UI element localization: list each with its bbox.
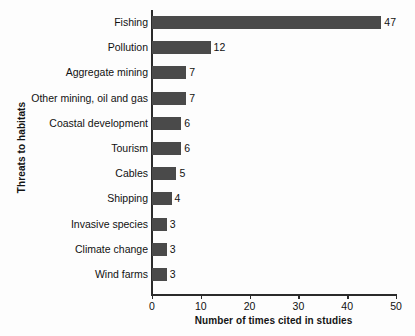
bar-row: Invasive species3 [0, 212, 415, 237]
x-tick-label: 40 [332, 300, 362, 312]
x-tick-label: 20 [235, 300, 265, 312]
x-tick-mark [298, 294, 299, 299]
bar-value-label: 5 [179, 167, 185, 180]
bar-value-label: 7 [189, 66, 195, 79]
bar-wrapper: 7 [152, 60, 195, 85]
bar-wrapper: 3 [152, 212, 175, 237]
bar [152, 192, 172, 205]
bar-row: Tourism6 [0, 136, 415, 161]
category-label: Shipping [0, 192, 148, 205]
bar-row: Fishing47 [0, 10, 415, 35]
category-label: Tourism [0, 142, 148, 155]
bar-value-label: 3 [170, 268, 176, 281]
x-tick-label: 0 [137, 300, 167, 312]
bar [152, 16, 381, 29]
bar-value-label: 6 [184, 117, 190, 130]
bar [152, 142, 181, 155]
bar-value-label: 4 [175, 192, 181, 205]
bar-wrapper: 6 [152, 111, 190, 136]
x-tick-mark [152, 294, 153, 299]
plot-area: Fishing47Pollution12Aggregate mining7Oth… [0, 0, 415, 336]
bar-row: Climate change3 [0, 237, 415, 262]
x-tick-label: 50 [381, 300, 411, 312]
bar-value-label: 6 [184, 142, 190, 155]
bar [152, 268, 167, 281]
bar-wrapper: 4 [152, 186, 180, 211]
category-label: Wind farms [0, 268, 148, 281]
category-label: Pollution [0, 41, 148, 54]
bar-row: Coastal development6 [0, 111, 415, 136]
bar-wrapper: 5 [152, 161, 185, 186]
bar-wrapper: 47 [152, 10, 396, 35]
bar-value-label: 7 [189, 92, 195, 105]
bar [152, 218, 167, 231]
x-tick-mark [201, 294, 202, 299]
category-label: Aggregate mining [0, 66, 148, 79]
category-label: Cables [0, 167, 148, 180]
x-tick-label: 30 [283, 300, 313, 312]
category-label: Other mining, oil and gas [0, 92, 148, 105]
x-tick-mark [250, 294, 251, 299]
bar [152, 117, 181, 130]
category-label: Climate change [0, 243, 148, 256]
bar [152, 167, 176, 180]
bar-value-label: 47 [384, 16, 396, 29]
x-tick-mark [396, 294, 397, 299]
bar [152, 92, 186, 105]
bar-row: Cables5 [0, 161, 415, 186]
bar-value-label: 3 [170, 243, 176, 256]
value-axis-line [151, 294, 396, 296]
x-tick-mark [347, 294, 348, 299]
bar-wrapper: 3 [152, 262, 175, 287]
bar-wrapper: 7 [152, 86, 195, 111]
bar-wrapper: 12 [152, 35, 225, 60]
x-axis-title: Number of times cited in studies [151, 315, 396, 326]
bar-wrapper: 6 [152, 136, 190, 161]
bar [152, 66, 186, 79]
bar-chart: Threats to habitats Fishing47Pollution12… [0, 0, 415, 336]
category-label: Coastal development [0, 117, 148, 130]
bar-row: Aggregate mining7 [0, 60, 415, 85]
category-label: Fishing [0, 16, 148, 29]
category-label: Invasive species [0, 218, 148, 231]
bar-row: Pollution12 [0, 35, 415, 60]
bar [152, 243, 167, 256]
bar-value-label: 3 [170, 218, 176, 231]
bar-row: Other mining, oil and gas7 [0, 86, 415, 111]
bar [152, 41, 211, 54]
bar-value-label: 12 [214, 41, 226, 54]
bar-row: Wind farms3 [0, 262, 415, 287]
x-tick-label: 10 [186, 300, 216, 312]
bar-row: Shipping4 [0, 186, 415, 211]
bar-wrapper: 3 [152, 237, 175, 262]
